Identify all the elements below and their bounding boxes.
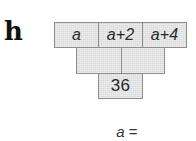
pyramid-cell-top-1: a xyxy=(54,22,99,48)
problem-label: h xyxy=(4,16,23,46)
answer-equals: = xyxy=(125,123,138,140)
pyramid-cell-top-2: a+2 xyxy=(98,22,143,48)
pyramid-cell-middle-1[interactable] xyxy=(76,47,122,74)
pyramid-cell-bottom: 36 xyxy=(98,73,143,99)
pyramid-cell-middle-2[interactable] xyxy=(121,47,165,74)
pyramid-cell-top-3: a+4 xyxy=(142,22,187,48)
answer-prompt: a = xyxy=(108,106,138,140)
answer-variable: a xyxy=(116,123,124,140)
